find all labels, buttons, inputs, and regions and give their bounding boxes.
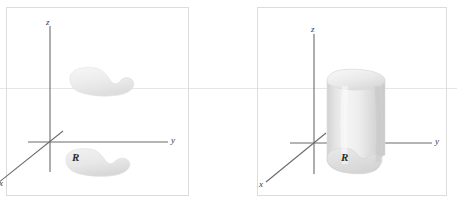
right-y-axis-label: y <box>435 137 439 146</box>
panel-right <box>257 7 447 196</box>
right-z-axis-label: z <box>311 25 315 34</box>
figure-root: z y x R z y x R <box>0 0 457 205</box>
right-region-label: R <box>341 152 348 163</box>
left-z-axis-label: z <box>46 18 50 27</box>
panel-left <box>6 7 189 196</box>
left-x-axis-label: x <box>0 179 3 188</box>
left-y-axis-label: y <box>171 136 175 145</box>
right-x-axis-label: x <box>259 180 263 189</box>
left-region-label: R <box>72 152 79 163</box>
